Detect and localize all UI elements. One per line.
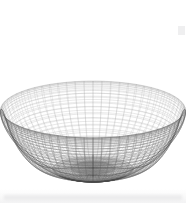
figure-root — [0, 0, 186, 203]
surface-wireframe-plot — [0, 0, 186, 203]
